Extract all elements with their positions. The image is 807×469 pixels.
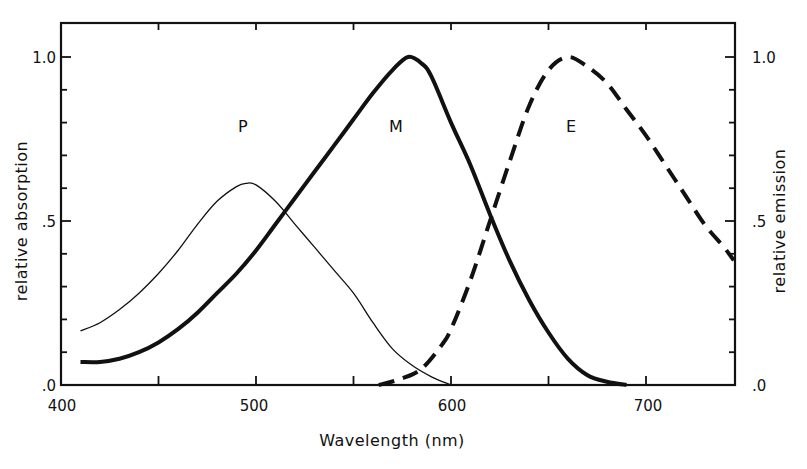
y-left-tick-label-0: .0 bbox=[42, 377, 56, 395]
x-axis-title: Wavelength (nm) bbox=[319, 431, 465, 450]
plot-frame bbox=[61, 23, 735, 385]
y-axis-title-left: relative absorption bbox=[12, 141, 31, 301]
x-tick-label-700: 700 bbox=[634, 397, 663, 415]
y-right-tick-label-05: .5 bbox=[752, 213, 766, 231]
curve-label-p: P bbox=[238, 117, 248, 136]
y-left-tick-label-1: 1.0 bbox=[32, 49, 56, 67]
y-left-tick-label-05: .5 bbox=[42, 213, 56, 231]
y-right-tick-label-0: .0 bbox=[752, 377, 766, 395]
y-right-tick-label-1: 1.0 bbox=[752, 49, 776, 67]
y-axis-title-right: relative emission bbox=[770, 149, 789, 294]
curve-e bbox=[379, 57, 734, 385]
curve-m bbox=[81, 57, 627, 385]
x-tick-label-400: 400 bbox=[48, 397, 77, 415]
x-tick-label-600: 600 bbox=[438, 397, 467, 415]
curve-label-m: M bbox=[389, 117, 403, 136]
x-tick-label-500: 500 bbox=[240, 397, 269, 415]
axis-ticks bbox=[61, 23, 735, 385]
curve-label-e: E bbox=[566, 117, 576, 136]
chart-canvas: P M E 400 500 600 700 .0 .5 1.0 .0 .5 1.… bbox=[0, 0, 807, 469]
